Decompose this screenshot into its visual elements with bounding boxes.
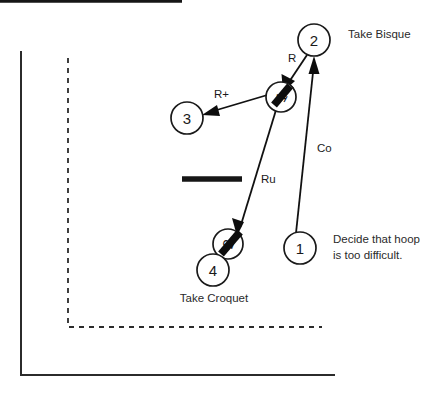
annotation-decide-hoop-line2: is too difficult. [333, 249, 402, 261]
ball-1-bottom[interactable]: 1 [284, 232, 316, 264]
shot-ru-line [240, 110, 276, 228]
annotation-take-croquet: Take Croquet [180, 292, 249, 304]
annotation-decide-hoop-line1: Decide that hoop [333, 233, 420, 245]
stroke-label-r-plus: R+ [214, 88, 229, 100]
ball-1-bottom-label: 1 [296, 240, 304, 257]
shot-co [296, 56, 320, 233]
shot-co-arrowhead [309, 56, 320, 74]
croquet-diagram: 3 1 2 2 4 1 R R+ [0, 0, 447, 400]
ball-2-top-label: 2 [310, 32, 318, 49]
shot-r-plus-arrowhead [202, 105, 220, 116]
croquet-diagram-canvas: 3 1 2 2 4 1 R R+ [0, 0, 447, 400]
stroke-label-r: R [288, 52, 296, 64]
shot-co-line [296, 63, 314, 233]
ball-4[interactable]: 4 [197, 254, 229, 286]
stroke-label-ru: Ru [261, 173, 276, 185]
ball-3[interactable]: 3 [171, 102, 203, 134]
ball-4-label: 4 [209, 262, 217, 279]
annotation-take-bisque: Take Bisque [348, 28, 411, 40]
stroke-label-co: Co [317, 142, 332, 154]
ball-3-label: 3 [183, 110, 191, 127]
ball-2-top[interactable]: 2 [298, 24, 330, 56]
